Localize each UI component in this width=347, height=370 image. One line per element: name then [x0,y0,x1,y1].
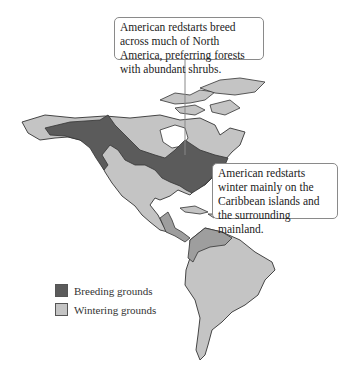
wintering-callout: American redstarts winter mainly on the … [212,163,338,219]
breeding-swatch-icon [55,284,68,297]
legend-label-wintering: Wintering grounds [74,304,156,316]
legend-label-breeding: Breeding grounds [74,285,153,297]
legend-item-breeding: Breeding grounds [55,281,156,300]
map-legend: Breeding grounds Wintering grounds [55,281,156,319]
arctic-islands [160,78,265,115]
breeding-callout: American redstarts breed across much of … [114,17,264,60]
legend-item-wintering: Wintering grounds [55,300,156,319]
central-america [160,212,190,242]
wintering-swatch-icon [55,303,68,316]
